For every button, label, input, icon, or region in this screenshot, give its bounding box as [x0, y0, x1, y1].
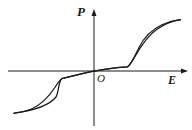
origin-label: O	[97, 73, 105, 84]
y-axis	[92, 9, 97, 126]
x-axis-arrow-icon	[181, 68, 188, 73]
curve-lower-branch	[14, 20, 181, 114]
y-axis-arrow-icon	[92, 9, 97, 16]
plot-canvas	[0, 0, 192, 130]
y-axis-label: P	[77, 5, 85, 18]
pe-curve-figure: P E O	[0, 0, 192, 130]
curve-upper-branch	[14, 20, 181, 113]
x-axis-label: E	[168, 74, 176, 86]
